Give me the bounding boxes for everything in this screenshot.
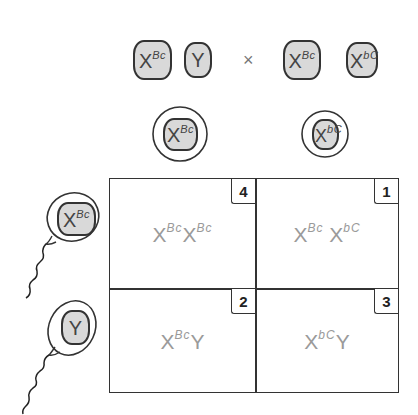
female-x-chromosome-2: XbC xyxy=(346,42,378,78)
punnett-cell-2: 1 XBc XbC xyxy=(256,179,398,288)
cell-number-badge: 4 xyxy=(231,179,255,204)
chromosome-label: XbC xyxy=(350,50,378,71)
chromosome-label: XBc xyxy=(63,209,90,230)
chromosome-label: XbC xyxy=(315,124,342,145)
punnett-square: 4 XBcXBc 1 XBc XbC 2 XBcY 3 XbCY xyxy=(109,178,399,393)
punnett-cell-3: 2 XBcY xyxy=(110,289,255,392)
cell-number-badge: 3 xyxy=(374,289,398,314)
sperm-2-neck xyxy=(49,347,60,355)
cell-genotype: XBc XbC xyxy=(293,221,360,247)
punnett-cell-4: 3 XbCY xyxy=(256,289,398,392)
sperm-1-neck xyxy=(46,236,56,244)
cell-number-badge: 1 xyxy=(374,179,398,204)
sperm-2-chromosome: Y xyxy=(61,310,90,345)
cell-number-badge: 2 xyxy=(231,289,255,314)
male-y-chromosome: Y xyxy=(184,42,212,78)
sperm-1-chromosome: XBc xyxy=(57,202,96,236)
chromosome-label: XBc xyxy=(288,50,315,71)
sperm-2-tail xyxy=(23,355,49,414)
cell-genotype: XBcXBc xyxy=(152,221,212,247)
male-x-chromosome: XBc xyxy=(133,40,172,80)
punnett-cell-1: 4 XBcXBc xyxy=(110,179,255,288)
egg-1-chromosome: XBc xyxy=(163,118,198,151)
chromosome-label: Y xyxy=(69,318,82,338)
cell-genotype: XBcY xyxy=(160,328,204,354)
punnett-diagram: XBc Y × XBc XbC XBc XbC XBc Y 4 XBcXBc 1… xyxy=(0,0,418,415)
sperm-1-tail xyxy=(26,244,46,298)
chromosome-label: XBc xyxy=(167,124,194,145)
female-x-chromosome-1: XBc xyxy=(283,40,321,80)
chromosome-label: Y xyxy=(191,50,204,70)
egg-2-chromosome: XbC xyxy=(312,119,339,150)
cross-symbol: × xyxy=(243,50,254,71)
cell-genotype: XbCY xyxy=(304,328,349,354)
chromosome-label: XBc xyxy=(139,50,166,71)
